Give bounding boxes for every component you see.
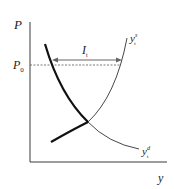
supply-curve-thick — [51, 122, 88, 142]
arrow-head-left-icon — [52, 58, 58, 63]
gap-label: It — [81, 43, 88, 58]
p0-label: P0 — [12, 58, 24, 74]
supply-curve-label: yst — [129, 32, 138, 46]
x-axis-label: y — [157, 171, 164, 185]
demand-curve-thin — [88, 122, 139, 149]
demand-curve-label: ydt — [141, 145, 151, 159]
y-axis-label: P — [13, 17, 22, 32]
supply-demand-diagram: P P0 It yst ydt y — [0, 0, 174, 189]
supply-curve-thin — [88, 38, 127, 122]
